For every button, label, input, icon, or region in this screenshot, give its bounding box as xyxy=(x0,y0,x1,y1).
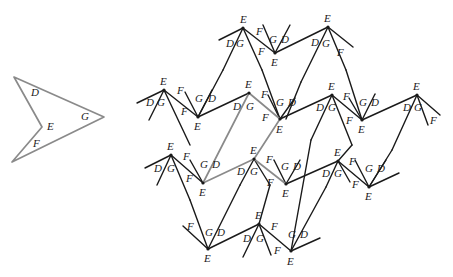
angle-label: E xyxy=(281,187,289,199)
vertex-dot xyxy=(201,181,204,184)
vertex-dot xyxy=(367,185,370,188)
vertex-dot xyxy=(273,51,276,54)
angle-label: D xyxy=(280,33,289,45)
angle-label: G xyxy=(195,92,203,104)
angle-label: F xyxy=(255,25,263,37)
angle-label: D xyxy=(321,167,330,179)
prototile-dart: DGEF xyxy=(12,77,104,162)
vertex-dot xyxy=(206,247,209,250)
angle-label: G xyxy=(236,37,244,49)
vertex-dot xyxy=(278,117,281,120)
angle-label: G xyxy=(167,162,175,174)
angle-label: E xyxy=(333,146,341,158)
angle-label: E xyxy=(193,120,201,132)
tile-edge xyxy=(164,90,190,145)
angle-label: G xyxy=(250,165,258,177)
angle-label: D xyxy=(315,101,324,113)
angle-label: G xyxy=(281,160,289,172)
angle-label: E xyxy=(203,252,211,264)
angle-label: D xyxy=(242,232,251,244)
angle-label: E xyxy=(270,56,278,68)
vertex-dot xyxy=(247,91,250,94)
angle-label: F xyxy=(176,84,184,96)
angle-label: E xyxy=(239,13,247,25)
angle-label: D xyxy=(292,160,301,172)
angle-label: F xyxy=(348,155,356,167)
vertex-dot xyxy=(162,88,165,91)
vertex-dot xyxy=(284,182,287,185)
angle-label: G xyxy=(359,96,367,108)
angle-label: E xyxy=(249,144,257,156)
vertex-dot xyxy=(360,118,363,121)
prototile-label: F xyxy=(32,137,40,149)
vertex-dot xyxy=(415,93,418,96)
vertex-dot xyxy=(336,159,339,162)
angle-label: F xyxy=(429,114,437,126)
angle-label: F xyxy=(182,150,190,162)
dart-shape xyxy=(12,77,104,162)
tessellation-diagram: DGEF EDGFFGDEEDGFEDGFFGDEEDGFFGDEEDGFFGD… xyxy=(0,0,453,277)
tile-edge xyxy=(198,93,249,117)
prototile-label: E xyxy=(46,120,54,132)
angle-label: F xyxy=(273,244,281,256)
angle-label: E xyxy=(364,190,372,202)
angle-label: D xyxy=(370,96,379,108)
angle-label: G xyxy=(365,162,373,174)
angle-label: D xyxy=(299,228,308,240)
angle-label: G xyxy=(200,158,208,170)
angle-label: F xyxy=(260,88,268,100)
angle-label: E xyxy=(323,12,331,24)
angle-label: E xyxy=(159,75,167,87)
angle-label: D xyxy=(287,96,296,108)
angle-label: G xyxy=(334,167,342,179)
angle-label: F xyxy=(186,220,194,232)
angle-labels: EDGFFGDEEDGFEDGFFGDEEDGFFGDEEDGFFGDEEDGF… xyxy=(145,12,437,267)
angle-label: D xyxy=(207,92,216,104)
angle-label: G xyxy=(414,101,422,113)
angle-label: D xyxy=(310,36,319,48)
angle-label: E xyxy=(166,140,174,152)
angle-label: F xyxy=(261,111,269,123)
angle-label: E xyxy=(286,255,294,267)
angle-label: F xyxy=(351,178,359,190)
angle-label: F xyxy=(257,45,265,57)
angle-label: D xyxy=(376,162,385,174)
angle-label: F xyxy=(342,90,350,102)
vertex-dots xyxy=(162,25,418,252)
angle-label: E xyxy=(357,123,365,135)
tile-edge xyxy=(208,224,259,249)
angle-label: G xyxy=(288,228,296,240)
angle-label: G xyxy=(157,96,165,108)
vertex-dot xyxy=(330,93,333,96)
angle-label: G xyxy=(328,101,336,113)
angle-label: D xyxy=(153,162,162,174)
vertex-dot xyxy=(196,115,199,118)
prototile-label: D xyxy=(30,86,39,98)
angle-label: D xyxy=(225,37,234,49)
angle-label: G xyxy=(322,37,330,49)
angle-label: E xyxy=(244,78,252,90)
angle-label: D xyxy=(236,165,245,177)
highlighted-tile-edge xyxy=(203,159,254,183)
angle-label: F xyxy=(180,105,188,117)
tile-edge xyxy=(208,185,240,249)
angle-label: E xyxy=(327,80,335,92)
angle-label: G xyxy=(256,232,264,244)
angle-label: G xyxy=(205,226,213,238)
vertex-dot xyxy=(289,249,292,252)
angle-label: G xyxy=(276,96,284,108)
angle-label: E xyxy=(275,123,283,135)
angle-label: F xyxy=(270,220,278,232)
tile-edge xyxy=(223,28,243,70)
angle-label: F xyxy=(265,153,273,165)
angle-label: D xyxy=(211,158,220,170)
angle-label: D xyxy=(232,100,241,112)
angle-label: D xyxy=(402,101,411,113)
angle-label: F xyxy=(345,114,353,126)
angle-label: E xyxy=(198,186,206,198)
angle-label: F xyxy=(336,46,344,58)
vertex-dot xyxy=(257,222,260,225)
vertex-dot xyxy=(169,153,172,156)
prototile-label: G xyxy=(81,110,89,122)
angle-label: G xyxy=(246,100,254,112)
